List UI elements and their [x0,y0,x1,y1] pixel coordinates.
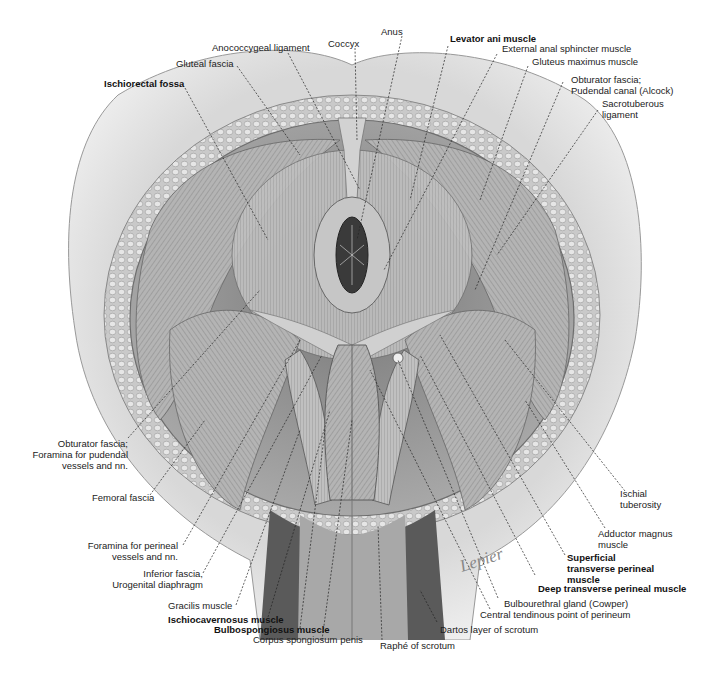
label-line: Urogenital diaphragm [112,579,203,590]
label-central-tendinous-point: Central tendinous point of perineum [480,609,631,620]
label-raphe-of-scrotum: Raphé of scrotum [380,640,455,651]
label-dartos-layer: Dartos layer of scrotum [440,624,538,635]
label-obturator-fascia-pudendal-canal: Obturator fascia; Pudendal canal (Alcock… [571,74,673,96]
label-external-anal-sphincter-muscle: External anal sphincter muscle [502,43,631,54]
label-anococcygeal-ligament: Anococcygeal ligament [212,42,310,53]
label-ischiorectal-fossa: Ischiorectal fossa [104,78,184,89]
label-line: muscle [598,539,672,550]
label-line: tuberosity [620,499,661,510]
label-bulbourethral-gland: Bulbourethral gland (Cowper) [504,598,628,609]
label-line: Foramina for pudendal [32,449,128,460]
label-line: Obturator fascia; [571,74,673,85]
label-line: Obturator fascia; [32,438,128,449]
label-line: Pudendal canal (Alcock) [571,85,673,96]
label-line: vessels and nn. [32,460,128,471]
label-gluteus-maximus-muscle: Gluteus maximus muscle [532,56,638,67]
label-ischial-tuberosity: Ischial tuberosity [620,488,661,510]
label-line: Ischial [620,488,661,499]
label-line: Sacrotuberous [602,98,664,109]
label-deep-transverse-perineal: Deep transverse perineal muscle [538,583,686,594]
label-femoral-fascia: Femoral fascia [92,492,154,503]
label-adductor-magnus-muscle: Adductor magnus muscle [598,528,672,550]
label-sacrotuberous-ligament: Sacrotuberous ligament [602,98,664,120]
bulbourethral-gland-shape [393,353,403,363]
label-line: ligament [602,109,664,120]
label-line: Inferior fascia, [112,568,203,579]
label-foramina-perineal: Foramina for perineal vessels and nn. [88,540,178,562]
label-inferior-fascia: Inferior fascia, Urogenital diaphragm [112,568,203,590]
label-gracilis-muscle: Gracilis muscle [168,600,232,611]
label-line: Superficial [567,552,654,563]
label-line: Foramina for perineal [88,540,178,551]
label-line: vessels and nn. [88,551,178,562]
label-corpus-spongiosum-penis: Corpus spongiosum penis [253,634,363,645]
label-gluteal-fascia: Gluteal fascia [176,58,234,69]
label-line: Adductor magnus [598,528,672,539]
label-line: transverse perineal [567,563,654,574]
label-superficial-transverse-perineal: Superficial transverse perineal muscle [567,552,654,585]
label-obturator-fascia-foramina: Obturator fascia; Foramina for pudendal … [32,438,128,471]
label-coccyx: Coccyx [328,38,359,49]
label-anus: Anus [381,26,403,37]
